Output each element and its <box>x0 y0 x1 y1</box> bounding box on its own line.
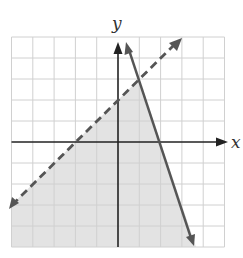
solid-line-arrow-icon-top <box>125 42 134 55</box>
graph: x y <box>0 0 243 258</box>
y-axis-arrow-icon <box>114 42 123 54</box>
x-axis-label: x <box>231 132 241 152</box>
x-axis-arrow-icon <box>216 138 228 147</box>
y-axis-label: y <box>111 13 122 33</box>
